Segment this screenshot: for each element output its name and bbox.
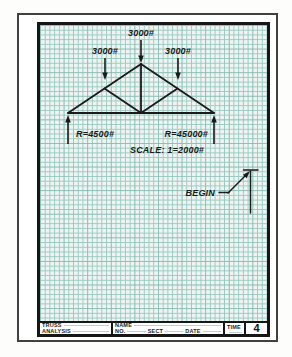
titleblock-time-cell: TIME <box>225 323 246 334</box>
titleblock-sheet-number-cell: 4 <box>246 323 267 334</box>
no-label: NO. <box>115 329 125 335</box>
guide-line <box>203 331 221 332</box>
guide-line <box>127 331 145 332</box>
guide-line <box>165 331 183 332</box>
date-label: DATE <box>185 329 200 335</box>
titleblock-name-cell: NAME NO. SECT DATE <box>113 323 225 334</box>
scanned-drawing-page: { "drawing": { "loads": { "top": "3000#"… <box>0 0 292 357</box>
title-block: TRUSS ANALYSIS NAME NO. SECT DATE TIME <box>37 321 270 337</box>
guide-line <box>134 325 221 326</box>
guide-line <box>229 332 242 333</box>
sect-label: SECT <box>148 329 163 335</box>
graph-paper-sheet <box>37 22 270 337</box>
time-label: TIME <box>227 325 241 331</box>
guide-line <box>64 325 109 326</box>
titleblock-project-cell: TRUSS ANALYSIS <box>40 323 113 334</box>
project-title-line2: ANALYSIS <box>42 329 71 335</box>
guide-line <box>73 331 109 332</box>
sheet-number: 4 <box>253 323 259 334</box>
